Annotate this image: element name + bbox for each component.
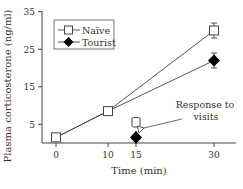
legend-tourist-label: Tourist xyxy=(82,37,116,48)
naive-point-15 xyxy=(132,118,140,128)
tourist-point-15 xyxy=(130,131,142,144)
corticosterone-chart: 5 15 25 35 0 10 15 30 Time (min) Plasma … xyxy=(0,0,243,189)
x-tick-label: 15 xyxy=(130,150,142,160)
naive-point-10 xyxy=(104,107,113,116)
y-tick-label: 35 xyxy=(24,7,36,17)
x-tick-label: 10 xyxy=(102,150,114,160)
y-tick-label: 15 xyxy=(24,82,36,92)
x-tick-label: 0 xyxy=(53,150,59,160)
y-ticks: 5 15 25 35 xyxy=(24,7,42,130)
annotation-arrow xyxy=(144,119,182,128)
y-tick-label: 5 xyxy=(29,120,35,130)
legend-naive-label: Naïve xyxy=(82,25,110,36)
x-ticks: 0 10 15 30 xyxy=(53,143,220,160)
annotation-line1: Response to xyxy=(176,99,235,110)
y-axis-title: Plasma corticosterone (ng/ml) xyxy=(2,9,13,162)
annotation: Response to visits xyxy=(144,99,235,128)
legend: Naïve Tourist xyxy=(54,20,116,49)
x-axis-title: Time (min) xyxy=(111,165,166,176)
annotation-line2: visits xyxy=(192,111,218,122)
x-tick-label: 30 xyxy=(208,150,220,160)
tourist-point-30 xyxy=(208,55,220,67)
naive-point-30 xyxy=(210,26,219,35)
legend-naive-marker xyxy=(65,26,73,34)
naive-point-0 xyxy=(52,133,61,142)
y-tick-label: 25 xyxy=(24,45,36,55)
